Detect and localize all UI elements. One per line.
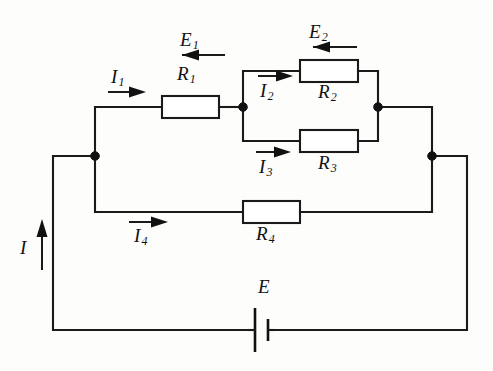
node-dot-parallel-left	[239, 103, 248, 112]
resistor-r1-body	[162, 96, 219, 118]
node-dot-parallel-right	[374, 103, 383, 112]
label-current-total: I	[20, 238, 27, 259]
label-current-1: I1	[111, 67, 125, 88]
wire-outer-loop	[53, 156, 249, 330]
label-resistor-2: R2	[318, 82, 337, 103]
label-emf-1: E1	[180, 30, 199, 51]
label-emf-main: E	[258, 277, 271, 298]
label-current-4: I4	[134, 226, 148, 247]
node-dot-right	[428, 152, 437, 161]
resistor-r3-body	[300, 130, 358, 152]
label-resistor-1: R1	[177, 64, 196, 85]
wire-r2-right	[358, 71, 378, 107]
wire-parallel-right-to-node	[378, 107, 432, 156]
wire-parallel-left-lower	[243, 107, 300, 141]
label-current-3: I3	[259, 157, 273, 178]
resistor-r4-body	[243, 201, 300, 223]
circuit-diagram-canvas: E1 E2 I1 R1 I2 R2 I3 R3 I4 R4 I E	[0, 0, 493, 371]
wire-branch-r1-left	[95, 107, 162, 156]
resistor-r2-body	[300, 60, 358, 82]
label-resistor-4: R4	[256, 224, 275, 245]
wire-outer-loop-right	[272, 156, 467, 330]
label-emf-2: E2	[309, 22, 328, 43]
label-resistor-3: R3	[318, 153, 337, 174]
current-arrow-i-total	[37, 219, 48, 270]
label-current-2: I2	[260, 81, 274, 102]
node-dot-left	[91, 152, 100, 161]
circuit-schematic-svg	[0, 0, 493, 371]
wire-r3-right	[358, 107, 378, 141]
wire-r4-left	[95, 156, 243, 212]
